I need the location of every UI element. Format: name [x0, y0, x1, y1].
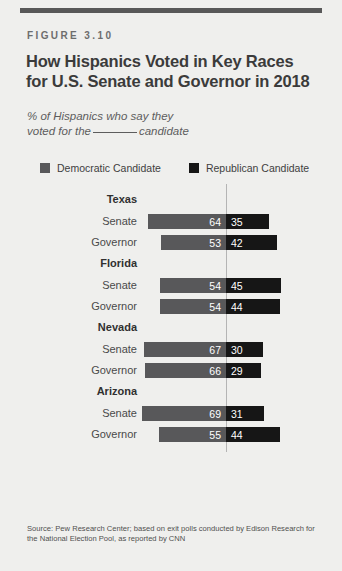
bar-group: 5544 — [0, 427, 342, 442]
state-label-texas: Texas — [7, 192, 137, 207]
chart-row: Senate5445 — [0, 278, 342, 299]
bar-value-democratic: 54 — [209, 280, 221, 292]
subtitle-line-2-before: voted for the — [27, 125, 91, 137]
bar-republican: 45 — [226, 278, 281, 293]
subtitle-line-2-after: candidate — [139, 125, 189, 137]
bar-democratic: 67 — [144, 342, 226, 357]
chart-row: Senate6435 — [0, 214, 342, 235]
bar-value-republican: 42 — [231, 237, 243, 249]
title-line-2: for U.S. Senate and Governor in 2018 — [26, 72, 326, 92]
top-rule — [20, 8, 322, 13]
bar-group: 6931 — [0, 406, 342, 421]
bar-value-republican: 29 — [231, 365, 243, 377]
bar-democratic: 54 — [160, 299, 226, 314]
legend-label: Republican Candidate — [206, 162, 309, 174]
legend-item-republican: Republican Candidate — [189, 162, 309, 174]
group-header-row: Nevada — [0, 320, 342, 342]
bar-group: 5445 — [0, 278, 342, 293]
state-label-arizona: Arizona — [7, 384, 137, 399]
bar-republican: 31 — [226, 406, 264, 421]
bar-democratic: 53 — [161, 235, 226, 250]
square-swatch-icon — [40, 163, 50, 173]
square-swatch-icon — [189, 163, 199, 173]
legend-item-democratic: Democratic Candidate — [40, 162, 161, 174]
bar-value-democratic: 54 — [209, 301, 221, 313]
chart-row: Governor6629 — [0, 363, 342, 384]
legend-label: Democratic Candidate — [57, 162, 161, 174]
bar-democratic: 66 — [145, 363, 226, 378]
chart-row: Governor5444 — [0, 299, 342, 320]
bar-group: 6435 — [0, 214, 342, 229]
chart-row: Governor5544 — [0, 427, 342, 448]
blank-underline — [93, 132, 137, 133]
bar-republican: 44 — [226, 427, 280, 442]
group-header-row: Texas — [0, 192, 342, 214]
bar-value-republican: 31 — [231, 408, 243, 420]
bar-value-republican: 44 — [231, 429, 243, 441]
bar-republican: 29 — [226, 363, 261, 378]
bar-value-democratic: 55 — [209, 429, 221, 441]
bar-group: 6730 — [0, 342, 342, 357]
subtitle: % of Hispanics who say they voted for th… — [27, 109, 307, 138]
state-label-florida: Florida — [7, 256, 137, 271]
bar-republican: 30 — [226, 342, 263, 357]
bar-value-democratic: 64 — [209, 216, 221, 228]
state-label-nevada: Nevada — [7, 320, 137, 335]
bar-democratic: 55 — [159, 427, 226, 442]
bar-republican: 42 — [226, 235, 277, 250]
bar-value-democratic: 69 — [209, 408, 221, 420]
bar-democratic: 69 — [142, 406, 226, 421]
bar-group: 6629 — [0, 363, 342, 378]
bar-value-republican: 44 — [231, 301, 243, 313]
bar-value-democratic: 67 — [209, 344, 221, 356]
bar-democratic: 64 — [148, 214, 226, 229]
bar-republican: 35 — [226, 214, 269, 229]
chart-row: Senate6931 — [0, 406, 342, 427]
bar-value-democratic: 53 — [209, 237, 221, 249]
bar-democratic: 54 — [160, 278, 226, 293]
figure-card: FIGURE 3.10 How Hispanics Voted in Key R… — [0, 0, 342, 571]
bar-value-republican: 45 — [231, 280, 243, 292]
bar-value-republican: 35 — [231, 216, 243, 228]
source-note: Source: Pew Research Center; based on ex… — [27, 524, 319, 544]
bar-group: 5444 — [0, 299, 342, 314]
bar-value-republican: 30 — [231, 344, 243, 356]
chart-legend: Democratic CandidateRepublican Candidate — [40, 162, 309, 174]
group-header-row: Florida — [0, 256, 342, 278]
title-line-1: How Hispanics Voted in Key Races — [26, 52, 293, 70]
figure-label: FIGURE 3.10 — [27, 30, 113, 41]
bar-group: 5342 — [0, 235, 342, 250]
bar-republican: 44 — [226, 299, 280, 314]
chart-row: Governor5342 — [0, 235, 342, 256]
subtitle-line-1: % of Hispanics who say they — [27, 110, 173, 122]
page-title: How Hispanics Voted in Key Races for U.S… — [26, 52, 326, 91]
bar-value-democratic: 66 — [209, 365, 221, 377]
chart-row: Senate6730 — [0, 342, 342, 363]
group-header-row: Arizona — [0, 384, 342, 406]
